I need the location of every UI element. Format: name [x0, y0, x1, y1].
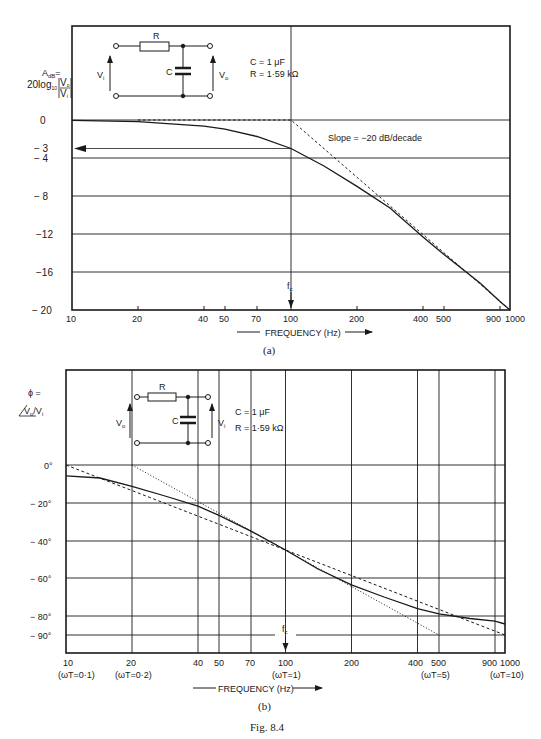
xtick-labels-a: 10 20 40 50 70 100 200 400 500 900 1000 — [66, 314, 525, 324]
fc-arrow-icon-b — [283, 643, 289, 651]
yticks-b: 0° − 20° − 40° − 60° − 80° − 90° — [30, 461, 53, 641]
svg-text:ϕ =: ϕ = — [28, 388, 41, 398]
circuit-label-c-b: C — [172, 416, 179, 426]
panel-b: fc 0° − 20° − 40° − 60° − 80° − 90° ϕ = … — [19, 370, 524, 733]
svg-text:Vo/Vi: Vo/Vi — [24, 406, 43, 417]
svg-text:(ωT=0·2): (ωT=0·2) — [115, 670, 152, 680]
circuit-diagram-a — [110, 42, 213, 99]
svg-text:500: 500 — [431, 658, 446, 668]
svg-text:0: 0 — [40, 115, 46, 126]
c-value-b: C = 1 μF — [235, 407, 270, 417]
svg-text:− 8: − 8 — [34, 191, 49, 202]
circuit-label-c-a: C — [166, 67, 173, 77]
svg-text:−16: −16 — [36, 267, 53, 278]
circuit-label-r-a: R — [153, 31, 160, 41]
svg-text:70: 70 — [251, 314, 261, 324]
svg-text:900: 900 — [486, 314, 501, 324]
figure-canvas: fc 0 − 3 − 4 − 8 −12 −16 − 20 AdB= 20log… — [0, 0, 541, 739]
svg-text:− 90°: − 90° — [30, 631, 52, 641]
circuit-label-vo-b: Vo — [116, 418, 126, 429]
ylabel-a: AdB= 20log10 Vo Vi — [27, 68, 71, 99]
svg-text:FREQUENCY (Hz): FREQUENCY (Hz) — [265, 328, 341, 338]
r-value-a: R = 1·59 kΩ — [250, 69, 299, 79]
panel-a-label: (a) — [263, 344, 276, 357]
svg-text:900: 900 — [482, 658, 497, 668]
resistor-icon-b — [148, 393, 176, 401]
svg-text:FREQUENCY (Hz): FREQUENCY (Hz) — [218, 684, 294, 694]
figure-caption: Fig. 8.4 — [250, 721, 284, 733]
c-value-a: C = 1 μF — [250, 57, 285, 67]
svg-text:50: 50 — [219, 314, 229, 324]
circuit-label-vo-a: Vo — [219, 70, 229, 81]
svg-text:200: 200 — [344, 658, 359, 668]
circuit-label-r-b: R — [159, 382, 166, 392]
svg-text:100: 100 — [278, 658, 293, 668]
svg-text:200: 200 — [349, 314, 364, 324]
svg-text:20log10: 20log10 — [27, 79, 57, 91]
svg-text:10: 10 — [66, 314, 76, 324]
svg-text:− 20: − 20 — [32, 305, 52, 316]
ylabel-b: ϕ = Vo/Vi — [19, 388, 43, 417]
svg-text:20: 20 — [132, 314, 142, 324]
svg-text:40: 40 — [193, 658, 203, 668]
svg-text:1000: 1000 — [505, 314, 525, 324]
panel-b-label: (b) — [258, 700, 271, 713]
svg-text:40: 40 — [198, 314, 208, 324]
svg-text:−12: −12 — [36, 229, 53, 240]
svg-text:(ωT=0·1): (ωT=0·1) — [58, 670, 95, 680]
xtick-labels-b: 10 20 40 50 70 100 200 400 500 900 1000 … — [58, 658, 524, 680]
resistor-icon — [140, 42, 169, 51]
svg-text:− 40°: − 40° — [30, 537, 52, 547]
svg-text:50: 50 — [214, 658, 224, 668]
circuit-label-vi-a: Vi — [97, 70, 104, 81]
svg-text:(ωT=10): (ωT=10) — [490, 670, 524, 680]
svg-text:Vo: Vo — [60, 77, 70, 88]
svg-text:− 4: − 4 — [34, 153, 49, 164]
svg-text:(ωT=1): (ωT=1) — [272, 670, 301, 680]
r-value-b: R = 1·59 kΩ — [235, 423, 284, 433]
svg-text:400: 400 — [408, 658, 423, 668]
svg-text:Vi: Vi — [60, 88, 68, 99]
svg-text:20: 20 — [126, 658, 136, 668]
svg-text:1000: 1000 — [500, 658, 520, 668]
circuit-diagram-b — [130, 393, 212, 446]
svg-text:AdB=: AdB= — [42, 68, 61, 79]
svg-text:70: 70 — [245, 658, 255, 668]
fc-arrow-icon-a — [288, 300, 294, 308]
circuit-label-vi-b: Vi — [218, 418, 225, 429]
svg-text:− 60°: − 60° — [30, 574, 52, 584]
svg-text:400: 400 — [413, 314, 428, 324]
xlabel-b: FREQUENCY (Hz) — [193, 684, 322, 694]
svg-text:100: 100 — [283, 314, 298, 324]
minus3db-arrowhead-icon — [74, 145, 86, 152]
panel-a: fc 0 − 3 − 4 − 8 −12 −16 − 20 AdB= 20log… — [27, 26, 525, 357]
svg-text:− 80°: − 80° — [30, 612, 52, 622]
svg-text:10: 10 — [63, 658, 73, 668]
svg-text:(ωT=5): (ωT=5) — [421, 670, 450, 680]
slope-annotation: Slope = −20 dB/decade — [328, 133, 422, 143]
svg-text:500: 500 — [436, 314, 451, 324]
fc-label-b: fc — [282, 624, 288, 635]
xlabel-a: FREQUENCY (Hz) — [237, 328, 372, 338]
yticks-a: 0 − 3 − 4 − 8 −12 −16 − 20 — [32, 115, 53, 316]
svg-text:− 20°: − 20° — [30, 499, 52, 509]
fc-label-a: fc — [287, 281, 293, 292]
svg-text:0°: 0° — [44, 461, 53, 471]
